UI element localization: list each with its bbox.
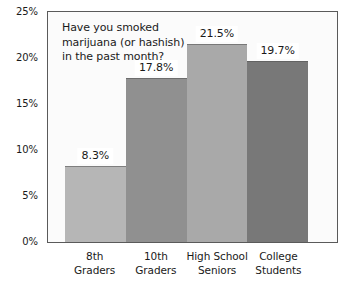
x-axis-category-label: CollegeStudents [248,249,309,289]
bar-chart-figure: 0%5%10%15%20%25% Have you smokedmarijuan… [0,0,349,296]
y-axis-tick-label: 10% [16,143,38,156]
plot-area: Have you smokedmarijuana (or hashish)in … [47,11,338,243]
x-axis-category-label: High SchoolSeniors [187,249,248,289]
bar-column[interactable]: 21.5% [187,12,248,242]
bar-rect[interactable] [187,44,248,242]
x-axis-category-label: 10thGraders [125,249,186,289]
x-axis-category-line: College [248,249,309,263]
bar-value-label: 8.3% [78,148,114,164]
bar-column[interactable]: 17.8% [126,12,187,242]
bar-rect[interactable] [247,61,308,242]
bar-column[interactable]: 8.3% [65,12,126,242]
x-axis-category-line: Graders [64,263,125,277]
bar-value-label: 19.7% [256,43,298,59]
y-axis-tick-label: 5% [22,189,38,202]
y-axis-tick-label: 15% [16,97,38,110]
bar-value-label: 21.5% [196,26,238,42]
x-axis-category-line: 10th [125,249,186,263]
bar-rect[interactable] [126,78,187,242]
y-axis-tick-label: 25% [16,5,38,18]
bar-column[interactable]: 19.7% [247,12,308,242]
x-axis-category-label: 8thGraders [64,249,125,289]
x-axis-category-line: Graders [125,263,186,277]
y-axis-tick-label: 0% [22,235,38,248]
bar-value-label: 17.8% [135,60,177,76]
plot-inner: Have you smokedmarijuana (or hashish)in … [48,12,337,242]
bar-rect[interactable] [65,166,126,242]
y-axis-tick-label: 20% [16,51,38,64]
y-axis: 0%5%10%15%20%25% [0,11,47,243]
x-axis-category-line: Students [248,263,309,277]
bar-series: 8.3%17.8%21.5%19.7% [65,12,308,242]
x-axis-category-line: 8th [64,249,125,263]
x-axis-category-line: High School [187,249,248,263]
x-axis: 8thGraders10thGradersHigh SchoolSeniorsC… [64,249,309,289]
x-axis-category-line: Seniors [187,263,248,277]
